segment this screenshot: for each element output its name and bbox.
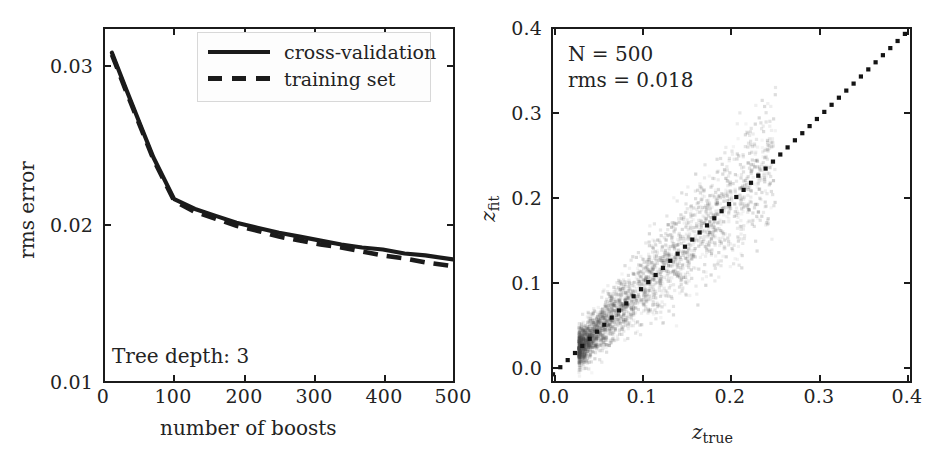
left-ytick-0.01 [103, 381, 111, 383]
right-ytick-right-0.3 [904, 112, 912, 114]
left-annotation-tree-depth: Tree depth: 3 [112, 344, 249, 368]
left-yticklabel-0.03: 0.03 [30, 55, 93, 77]
left-xticklabel-300: 300 [296, 385, 333, 407]
left-xaxis-title: number of boosts [160, 416, 337, 440]
right-xaxis-title-base: z [692, 420, 703, 444]
left-yticklabel-0.02: 0.02 [30, 214, 93, 236]
right-xticklabel-0.2: 0.2 [715, 385, 746, 407]
right-annotation-rms: rms = 0.018 [568, 68, 694, 92]
left-ytick-right-0.02 [447, 224, 455, 226]
legend-label-training-set: training set [284, 68, 396, 90]
right-xtick-0.1 [642, 375, 644, 383]
right-ytick-0.1 [551, 282, 559, 284]
right-ytick-0.0 [551, 367, 559, 369]
legend-item-training-set: training set [208, 65, 420, 92]
right-xtick-top-0.3 [819, 27, 821, 35]
legend-dashed-line-icon [208, 72, 270, 86]
right-xtick-0.3 [819, 375, 821, 383]
left-ytick-right-0.01 [447, 381, 455, 383]
left-xticklabel-0: 0 [97, 385, 109, 407]
left-ytick-0.03 [103, 65, 111, 67]
legend-item-cross-validation: cross-validation [208, 38, 420, 65]
right-yticklabel-0.4: 0.4 [490, 17, 542, 39]
right-xtick-0.0 [554, 375, 556, 383]
right-ytick-right-0.0 [904, 367, 912, 369]
left-xticklabel-100: 100 [155, 385, 192, 407]
left-xtick-top-0 [103, 27, 105, 35]
right-xtick-0.4 [907, 375, 909, 383]
left-yticklabel-0.01: 0.01 [30, 371, 93, 393]
left-panel: 0 100 200 300 400 500 0.03 0.02 0.01 num… [0, 0, 470, 461]
right-ytick-0.2 [551, 197, 559, 199]
right-xaxis-title-sub: true [703, 430, 733, 446]
left-legend: cross-validation training set [197, 32, 431, 102]
left-ytick-right-0.03 [447, 65, 455, 67]
left-xtick-top-100 [173, 27, 175, 35]
right-ytick-0.4 [551, 27, 559, 29]
right-yaxis-title: zfit [476, 174, 502, 244]
left-xtick-top-500 [453, 27, 455, 35]
right-yaxis-title-base: z [476, 211, 500, 222]
right-ytick-right-0.4 [904, 27, 912, 29]
right-xtick-top-0.1 [642, 27, 644, 35]
right-xaxis-title: ztrue [692, 420, 733, 446]
left-ytick-0.02 [103, 224, 111, 226]
left-yaxis-title: rms error [15, 150, 39, 270]
legend-solid-line-icon [208, 45, 270, 59]
left-xtick-400 [384, 375, 386, 383]
figure-canvas: 0 100 200 300 400 500 0.03 0.02 0.01 num… [0, 0, 947, 461]
right-panel: 0.0 0.1 0.2 0.3 0.4 0.4 0.3 0.2 0.1 0.0 … [470, 0, 947, 461]
left-xtick-300 [314, 375, 316, 383]
right-yticklabel-0.1: 0.1 [490, 272, 542, 294]
left-xticklabel-400: 400 [366, 385, 403, 407]
right-xticklabel-0.4: 0.4 [892, 385, 923, 407]
right-xticklabel-0.0: 0.0 [539, 385, 570, 407]
right-yticklabel-0.0: 0.0 [490, 357, 542, 379]
left-xtick-100 [173, 375, 175, 383]
left-xticklabel-200: 200 [226, 385, 263, 407]
right-xticklabel-0.3: 0.3 [804, 385, 835, 407]
right-yaxis-title-sub: fit [486, 196, 502, 211]
right-xtick-0.2 [730, 375, 732, 383]
left-xticklabel-500: 500 [435, 385, 472, 407]
right-ytick-right-0.2 [904, 197, 912, 199]
legend-label-cross-validation: cross-validation [284, 41, 436, 63]
right-annotation-n: N = 500 [568, 42, 653, 66]
left-xtick-200 [244, 375, 246, 383]
right-ytick-0.3 [551, 112, 559, 114]
right-ytick-right-0.1 [904, 282, 912, 284]
density-cloud-points [577, 86, 777, 378]
right-yticklabel-0.3: 0.3 [490, 102, 542, 124]
right-xtick-top-0.2 [730, 27, 732, 35]
right-xticklabel-0.1: 0.1 [627, 385, 658, 407]
